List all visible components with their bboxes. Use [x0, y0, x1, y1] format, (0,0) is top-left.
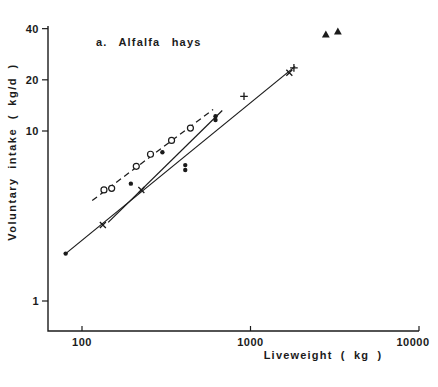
trend-line-long-solid-regression	[66, 66, 295, 253]
marker-circle-open	[109, 185, 115, 191]
y-tick-label: 40	[26, 23, 39, 35]
marker-circle-filled	[213, 118, 217, 122]
x-tick-label: 1000	[237, 336, 263, 348]
marker-triangle	[322, 30, 330, 37]
y-tick-label: 1	[32, 295, 39, 307]
marker-circle-filled	[183, 168, 187, 172]
marker-circle-filled	[63, 251, 67, 255]
y-tick-label: 10	[26, 125, 39, 137]
marker-circle-open	[187, 125, 193, 131]
marker-plus	[240, 92, 248, 100]
x-tick-label: 100	[72, 336, 92, 348]
marker-circle-filled	[160, 150, 164, 154]
x-tick-label: 10000	[396, 336, 429, 348]
marker-circle-open	[101, 187, 107, 193]
y-tick-label: 20	[26, 74, 39, 86]
marker-triangle	[334, 27, 342, 34]
marker-circle-open	[133, 163, 139, 169]
figure-panel: 4020101100100010000 a. Alfalfa hays Live…	[0, 0, 438, 387]
chart-title: a. Alfalfa hays	[96, 36, 202, 48]
y-axis-label: Voluntary intake ( kg/d )	[6, 37, 20, 267]
trend-line-short-solid-regression	[108, 111, 222, 223]
marker-circle-filled	[129, 181, 133, 185]
marker-circle-open	[169, 137, 175, 143]
chart: 4020101100100010000	[0, 0, 438, 387]
marker-circle-open	[148, 151, 154, 157]
marker-circle-filled	[183, 163, 187, 167]
x-axis-label: Liveweight ( kg )	[243, 349, 403, 361]
axes	[48, 26, 419, 331]
